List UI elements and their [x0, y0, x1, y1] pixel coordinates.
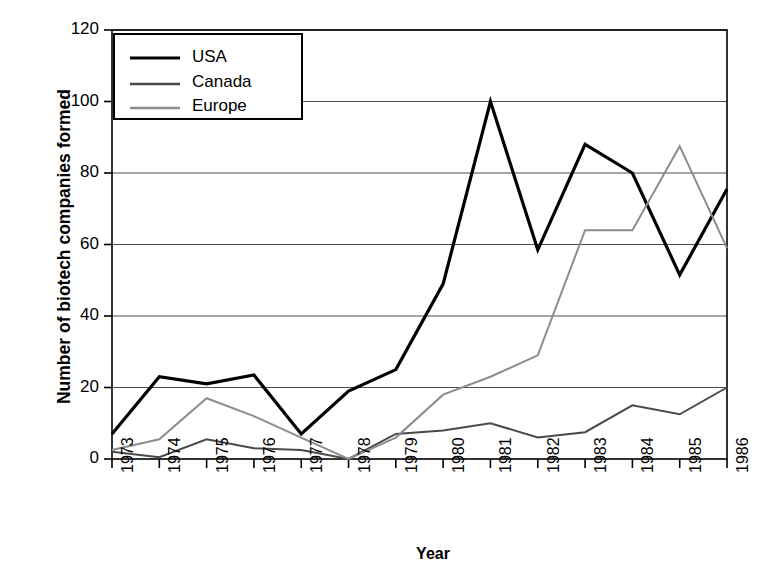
y-tick-label: 20 — [80, 377, 99, 397]
x-tick-label: 1975 — [214, 437, 232, 473]
caption-partial — [0, 572, 770, 586]
y-tick-label: 0 — [90, 448, 99, 468]
y-tick-label: 40 — [80, 305, 99, 325]
x-tick-label: 1978 — [356, 437, 374, 473]
x-tick-label: 1984 — [639, 437, 657, 473]
series-line-usa — [112, 102, 727, 434]
legend-label-canada: Canada — [192, 72, 252, 92]
x-tick-label: 1985 — [687, 437, 705, 473]
x-tick-label: 1981 — [497, 437, 515, 473]
legend-label-europe: Europe — [192, 96, 247, 116]
x-tick-label: 1973 — [119, 437, 137, 473]
y-tick-label: 80 — [80, 162, 99, 182]
chart-plot — [0, 0, 770, 586]
x-tick-label: 1980 — [450, 437, 468, 473]
series-line-europe — [112, 146, 727, 459]
x-tick-label: 1979 — [403, 437, 421, 473]
x-tick-label: 1977 — [308, 437, 326, 473]
figure-container: Number of biotech companies formed Year … — [0, 0, 770, 586]
x-tick-label: 1976 — [261, 437, 279, 473]
y-tick-label: 60 — [80, 234, 99, 254]
data-series-group — [112, 102, 727, 460]
x-tick-label: 1974 — [166, 437, 184, 473]
y-tick-label: 100 — [71, 91, 99, 111]
y-tick-label: 120 — [71, 19, 99, 39]
legend-label-usa: USA — [192, 47, 227, 67]
x-tick-label: 1982 — [545, 437, 563, 473]
x-tick-label: 1983 — [592, 437, 610, 473]
x-tick-label: 1986 — [734, 437, 752, 473]
